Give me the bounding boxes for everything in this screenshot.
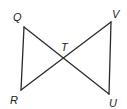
label-T: T (61, 41, 69, 53)
segment-QU (24, 27, 109, 94)
label-V: V (112, 8, 121, 20)
bowtie-triangle-diagram: Q V T R U (0, 0, 127, 109)
segment-RV (21, 22, 111, 90)
diagram-canvas: Q V T R U (0, 0, 127, 109)
label-R: R (10, 94, 18, 106)
segment-QR (21, 27, 24, 90)
label-U: U (109, 97, 117, 109)
label-Q: Q (13, 11, 22, 23)
segment-VU (109, 22, 111, 94)
